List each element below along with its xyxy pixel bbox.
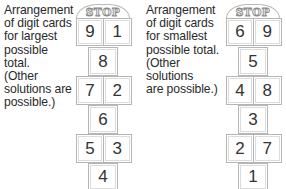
digit-card: 7 — [253, 134, 283, 163]
hopscotch-row-6: 4 — [88, 163, 118, 189]
hopscotch-row-1: 9 1 — [76, 18, 132, 46]
hopscotch-row-2: 5 — [238, 47, 268, 76]
digit-card: 1 — [103, 18, 133, 46]
hopscotch-smallest-total: STOP 6 9 5 4 8 3 2 7 1 — [225, 0, 283, 189]
hopscotch-row-3: 4 8 — [226, 76, 282, 105]
hopscotch-row-1: 6 9 — [226, 18, 282, 46]
digit-card: 5 — [76, 134, 104, 163]
digit-card: 8 — [88, 47, 118, 76]
hopscotch-row-2: 8 — [88, 47, 118, 76]
digit-card: 2 — [226, 134, 254, 163]
digit-card: 4 — [226, 76, 254, 105]
stop-sign-header: STOP — [76, 4, 130, 19]
digit-card: 9 — [253, 18, 283, 46]
digit-card: 4 — [88, 163, 118, 189]
digit-card: 6 — [226, 18, 254, 46]
digit-card: 7 — [76, 76, 104, 105]
digit-card: 1 — [238, 163, 268, 189]
hopscotch-row-4: 3 — [238, 105, 268, 134]
caption-smallest-total: Arrangement of digit cards for smallest … — [146, 4, 226, 96]
digit-card: 3 — [238, 105, 268, 134]
hopscotch-row-3: 7 2 — [76, 76, 132, 105]
digit-card: 3 — [103, 134, 133, 163]
hopscotch-row-6: 1 — [238, 163, 268, 189]
caption-largest-total: Arrangement of digit cards for largest p… — [4, 4, 74, 110]
hopscotch-row-4: 6 — [88, 105, 118, 134]
hopscotch-row-5: 2 7 — [226, 134, 282, 163]
digit-card: 8 — [253, 76, 283, 105]
digit-card: 9 — [76, 18, 104, 46]
digit-card: 2 — [103, 76, 133, 105]
hopscotch-row-5: 5 3 — [76, 134, 132, 163]
digit-card: 6 — [88, 105, 118, 134]
hopscotch-largest-total: STOP 9 1 8 7 2 6 5 3 4 — [75, 0, 133, 189]
stop-sign-header: STOP — [226, 4, 280, 19]
digit-card: 5 — [238, 47, 268, 76]
